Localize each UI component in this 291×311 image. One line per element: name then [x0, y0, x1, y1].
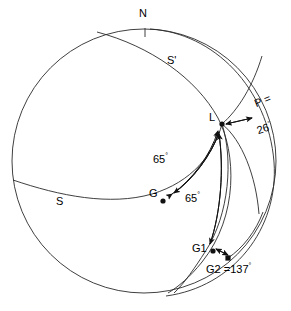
- angle-arrow-g-to-l: [172, 131, 218, 194]
- point-g: [160, 198, 165, 203]
- point-l: [219, 121, 224, 126]
- label-g2: G2 =137°: [206, 262, 251, 275]
- angle-arrow-pole-26-group: [226, 118, 252, 124]
- outer-sphere-arc: [150, 29, 274, 296]
- label-angle-upper-text: 65: [153, 153, 165, 165]
- pole-arc-lower: [222, 124, 259, 214]
- point-g2: [225, 255, 230, 260]
- degree-icon-g2: °: [249, 262, 252, 269]
- label-north: N: [139, 8, 147, 19]
- pole-arc-upper: [222, 56, 262, 124]
- degree-icon-upper: °: [165, 152, 168, 159]
- label-s: S: [56, 196, 63, 207]
- primitive-circle: [12, 29, 276, 293]
- point-g1: [210, 248, 215, 253]
- angle-arrow-g-to-l-group: [174, 132, 219, 193]
- label-g2-text: G2 =137: [206, 263, 249, 275]
- angle-arrow-g1-to-l-group: [210, 134, 221, 244]
- label-l: L: [209, 112, 215, 123]
- great-circle-s: [13, 124, 222, 199]
- label-g: G: [149, 188, 158, 199]
- label-angle-upper: 65°: [153, 152, 168, 165]
- degree-icon-lower: °: [197, 191, 200, 198]
- diagram-canvas: N S' S L G G1 G2 =137° P = 26° 65° 65°: [0, 0, 291, 311]
- label-g1: G1: [192, 243, 207, 254]
- label-angle-lower-text: 65: [185, 192, 197, 204]
- angle-arrow-g1-g2-group: [216, 249, 228, 255]
- label-angle-lower: 65°: [185, 191, 200, 204]
- label-s-prime: S': [167, 55, 176, 66]
